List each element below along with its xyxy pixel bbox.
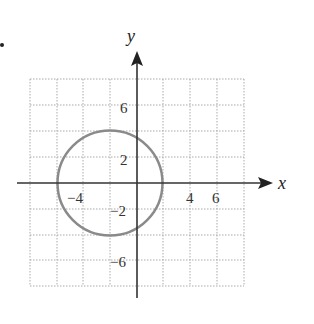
coordinate-plane: x y −4 4 6 6 2 −2 −6 [0, 0, 314, 324]
y-tick-label: −2 [110, 203, 126, 219]
y-axis-label: y [125, 26, 135, 46]
y-tick-label: 6 [120, 100, 128, 116]
x-tick-label: −4 [67, 190, 83, 206]
y-tick-label: −6 [110, 254, 126, 270]
y-tick-label: 2 [120, 152, 128, 168]
x-tick-label: 6 [212, 190, 220, 206]
x-tick-label: 4 [186, 190, 194, 206]
axes [17, 62, 262, 298]
x-axis-label: x [277, 173, 286, 193]
bullet-dot [0, 43, 4, 47]
